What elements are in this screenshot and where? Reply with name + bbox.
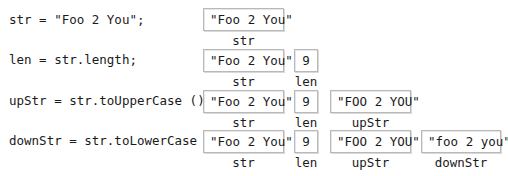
var-len: 9 len [294,90,318,130]
code-line-3: upStr = str.toUpperCase (); [9,93,212,108]
var-str: "Foo 2 You" str [203,130,284,170]
var-label: len [294,116,318,130]
var-str: "Foo 2 You" str [203,49,284,89]
var-label: str [203,34,284,48]
value-box: "Foo 2 You" [203,90,284,113]
var-label: str [203,75,284,89]
var-len: 9 len [294,49,318,89]
code-line-1: str = "Foo 2 You"; [9,12,144,27]
value-box: 9 [294,49,318,72]
var-str: "Foo 2 You" str [203,8,284,48]
value-box: "FOO 2 YOU" [330,130,411,153]
var-str: "Foo 2 You" str [203,90,284,130]
code-line-4: downStr = str.toLowerCase (); [9,133,227,148]
value-box: "foo 2 you" [421,130,501,153]
var-upStr: "FOO 2 YOU" upStr [330,130,411,170]
value-box: "Foo 2 You" [203,49,284,72]
value-box: "Foo 2 You" [203,130,284,153]
var-label: len [294,156,318,170]
var-label: upStr [330,116,411,130]
var-label: downStr [421,156,501,170]
code-line-2: len = str.length; [9,52,137,67]
var-downStr: "foo 2 you" downStr [421,130,501,170]
value-box: "Foo 2 You" [203,8,284,31]
var-label: upStr [330,156,411,170]
var-label: len [294,75,318,89]
value-box: 9 [294,130,318,153]
value-box: 9 [294,90,318,113]
var-label: str [203,156,284,170]
var-upStr: "FOO 2 YOU" upStr [330,90,411,130]
var-label: str [203,116,284,130]
var-len: 9 len [294,130,318,170]
value-box: "FOO 2 YOU" [330,90,411,113]
